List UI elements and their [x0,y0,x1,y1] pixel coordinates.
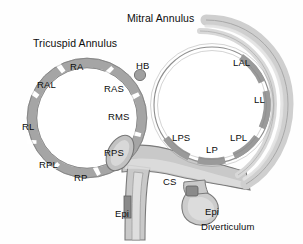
title-tricuspid-annulus: Tricuspid Annulus [33,38,117,49]
label-epi-left: Epi [115,209,129,219]
label-diverticulum: Diverticulum [201,222,254,232]
his-bundle-dot [134,69,145,80]
tricuspid-segment-ra: RA [70,62,83,72]
tricuspid-segment-rms: RMS [108,112,129,122]
mitral-segment-ll: LL [254,95,265,105]
label-his-bundle: HB [136,61,149,71]
title-mitral-annulus: Mitral Annulus [127,13,194,24]
mitral-segment-lpl: LPL [230,133,247,143]
tricuspid-segment-ral: RAL [37,80,56,90]
label-epi-right: Epi [205,207,219,217]
figure-canvas: Tricuspid Annulus Mitral Annulus RA RAL … [0,0,303,244]
tricuspid-segment-rpl: RPL [39,160,58,170]
mitral-segment-lal: LAL [233,58,250,68]
mitral-segment-lp: LP [206,145,218,155]
tricuspid-segment-rps: RPS [104,148,124,158]
mitral-segment-lps: LPS [172,133,190,143]
tricuspid-segment-rl: RL [22,122,34,132]
tricuspid-segment-ras: RAS [104,84,124,94]
tricuspid-segment-rp: RP [74,173,87,183]
label-coronary-sinus: CS [163,177,176,187]
epi-marker-right [186,186,198,196]
